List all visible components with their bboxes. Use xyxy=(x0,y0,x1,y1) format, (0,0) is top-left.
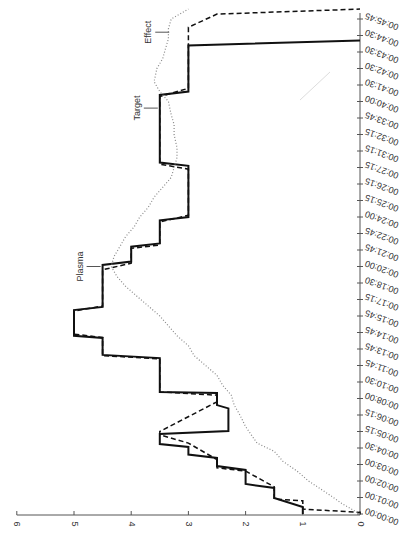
value-tick-label: 0 xyxy=(356,521,366,526)
annotation-target: Target xyxy=(132,95,142,121)
series-solid-line xyxy=(74,40,360,514)
rotated-line-chart: 012345600:00:0000:01:0000:02:0000:03:000… xyxy=(0,0,415,551)
axes: 012345600:00:0000:01:0000:02:0000:03:000… xyxy=(12,11,400,527)
scan-artifact-line xyxy=(300,72,330,100)
value-tick-label: 4 xyxy=(127,521,137,526)
value-tick-label: 6 xyxy=(12,521,22,526)
value-tick-label: 2 xyxy=(241,521,251,526)
value-tick-label: 5 xyxy=(70,521,80,526)
series-group xyxy=(74,9,360,514)
value-tick-label: 1 xyxy=(298,521,308,526)
annotation-plasma: Plasma xyxy=(75,251,85,281)
annotation-effect: Effect xyxy=(143,20,153,43)
value-tick-label: 3 xyxy=(184,521,194,526)
series-dotted-line xyxy=(111,9,360,514)
series-dashed-line xyxy=(74,9,360,514)
